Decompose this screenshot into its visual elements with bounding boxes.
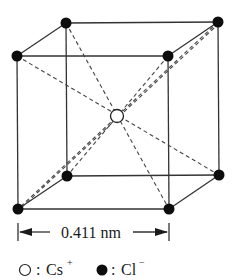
legend-filled-circle-icon <box>97 265 108 276</box>
legend: : Cs + : Cl − <box>20 257 146 278</box>
cscl-unit-cell-diagram: 0.411 nm : Cs + : Cl − <box>0 0 238 280</box>
lattice-constant-label: 0.411 nm <box>61 224 121 241</box>
legend-charge-cl: − <box>139 257 145 268</box>
legend-charge-cs: + <box>67 257 73 268</box>
cs-ion-center <box>111 110 124 123</box>
cl-ion-front-top-right <box>163 51 174 62</box>
legend-separator-cs: : <box>36 261 40 278</box>
cl-ion-front-bottom-right <box>164 204 175 215</box>
cl-ion-back-bottom-right <box>214 170 225 181</box>
cl-ion-back-top-left <box>61 18 72 29</box>
cl-ion-front-top-left <box>12 51 23 62</box>
legend-separator-cl: : <box>111 261 115 278</box>
cl-ion-front-bottom-left <box>13 204 24 215</box>
cl-ion-back-top-right <box>213 17 224 28</box>
lattice-dimension: 0.411 nm <box>18 223 169 241</box>
legend-open-circle-icon <box>20 265 31 276</box>
legend-label-cs: Cs <box>46 261 63 278</box>
legend-label-cl: Cl <box>121 261 137 278</box>
cl-ion-back-bottom-left <box>62 171 73 182</box>
